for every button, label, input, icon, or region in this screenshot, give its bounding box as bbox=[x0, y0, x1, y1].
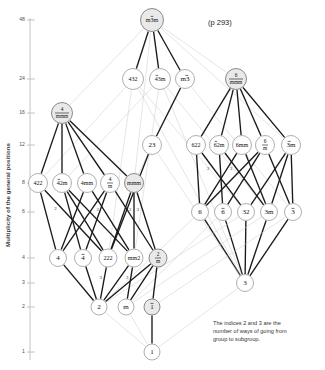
node-circle[interactable] bbox=[237, 275, 254, 292]
y-axis-tick-label: 2 bbox=[22, 303, 25, 309]
point-group-node[interactable]: 6 bbox=[215, 204, 232, 221]
point-group-node[interactable]: 622 bbox=[187, 136, 206, 155]
point-group-node[interactable]: 3m bbox=[282, 136, 301, 155]
lattice-edge bbox=[159, 217, 285, 302]
point-group-node[interactable]: mmm bbox=[125, 174, 144, 193]
page-reference: (p 293) bbox=[208, 18, 232, 27]
node-circle[interactable] bbox=[143, 136, 162, 155]
point-group-node[interactable]: 62m bbox=[210, 136, 229, 155]
point-group-node[interactable]: 2m bbox=[149, 249, 167, 267]
diagram-page: 48241612864321Multiplicity of the genera… bbox=[0, 0, 325, 370]
node-circle[interactable] bbox=[118, 299, 134, 315]
lattice-edge bbox=[243, 87, 285, 137]
point-group-node[interactable]: 42m bbox=[53, 174, 72, 193]
lattice-edge bbox=[237, 90, 241, 135]
lattice-edge bbox=[154, 32, 159, 68]
node-circle[interactable] bbox=[125, 174, 144, 193]
point-group-node[interactable]: 43m bbox=[150, 69, 171, 90]
node-circle[interactable] bbox=[215, 204, 232, 221]
node-circle[interactable] bbox=[285, 204, 302, 221]
lattice-edge bbox=[245, 221, 246, 274]
node-circle[interactable] bbox=[99, 249, 117, 267]
node-circle[interactable] bbox=[50, 250, 67, 267]
y-axis-tick-label: 1 bbox=[22, 348, 25, 354]
node-circle[interactable] bbox=[150, 69, 171, 90]
edge-index-label: 3 bbox=[129, 207, 132, 212]
point-group-node[interactable]: 1 bbox=[144, 344, 160, 360]
y-axis-tick-label: 3 bbox=[22, 279, 25, 285]
point-group-node[interactable]: 2 bbox=[91, 299, 107, 315]
edge-index-label: 3 bbox=[136, 207, 139, 212]
edge-index-label: 2 bbox=[126, 275, 129, 280]
node-circle[interactable] bbox=[91, 299, 107, 315]
y-axis-tick-label: 16 bbox=[19, 109, 25, 115]
lattice-edge bbox=[132, 218, 216, 301]
node-circle[interactable] bbox=[75, 250, 92, 267]
point-group-node[interactable]: 4m bbox=[101, 174, 120, 193]
lattice-edge bbox=[138, 89, 240, 275]
point-group-node[interactable]: 3 bbox=[285, 204, 302, 221]
point-group-node[interactable]: 3m bbox=[261, 204, 278, 221]
point-group-node[interactable]: 6 bbox=[192, 204, 209, 221]
node-circle[interactable] bbox=[187, 136, 206, 155]
node-circle[interactable] bbox=[144, 344, 160, 360]
lattice-edge bbox=[130, 314, 147, 344]
y-axis-tick-label: 12 bbox=[19, 141, 25, 147]
point-group-node[interactable]: 432 bbox=[123, 69, 144, 90]
point-group-node[interactable]: m3 bbox=[176, 70, 195, 89]
caption-line: number of ways of going from bbox=[213, 328, 287, 334]
edge-index-label: 2 bbox=[97, 207, 100, 212]
lattice-edge bbox=[153, 267, 157, 298]
point-group-node[interactable]: 422 bbox=[29, 174, 48, 193]
caption-line: The indices 2 and 3 are the bbox=[213, 320, 281, 326]
lattice-edge bbox=[101, 267, 107, 298]
caption-line: group to subgroup. bbox=[213, 336, 260, 342]
node-circle[interactable] bbox=[210, 136, 229, 155]
node-circle[interactable] bbox=[261, 204, 278, 221]
point-group-node[interactable]: 32 bbox=[238, 204, 255, 221]
point-group-node[interactable]: 4 bbox=[50, 250, 67, 267]
node-circle[interactable] bbox=[125, 249, 143, 267]
y-axis-tick-label: 6 bbox=[22, 208, 25, 214]
lattice-edge bbox=[86, 192, 107, 249]
lattice-edge bbox=[136, 31, 148, 68]
node-circle[interactable] bbox=[29, 174, 48, 193]
point-group-node[interactable]: 3 bbox=[237, 275, 254, 292]
node-circle[interactable] bbox=[144, 299, 160, 315]
node-circle[interactable] bbox=[123, 69, 144, 90]
lattice-edge bbox=[41, 123, 58, 173]
lattice-edge bbox=[158, 30, 180, 70]
lattice-edge bbox=[221, 90, 233, 136]
point-group-node[interactable]: 6m bbox=[256, 136, 275, 155]
lattice-edge bbox=[291, 155, 292, 203]
point-group-node[interactable]: 6mmm bbox=[226, 69, 247, 90]
point-group-node[interactable]: 4mm bbox=[78, 174, 97, 193]
point-group-node[interactable]: 4mmm bbox=[52, 103, 73, 124]
node-circle[interactable] bbox=[78, 174, 97, 193]
node-circle[interactable] bbox=[192, 204, 209, 221]
point-group-node[interactable]: m bbox=[118, 299, 134, 315]
lattice-edge bbox=[156, 88, 180, 136]
point-group-node[interactable]: 6mm bbox=[233, 136, 252, 155]
node-circle[interactable] bbox=[53, 174, 72, 193]
lattice-edge bbox=[41, 193, 56, 250]
point-group-node[interactable]: 4 bbox=[75, 250, 92, 267]
node-circle[interactable] bbox=[238, 204, 255, 221]
lattice-edge bbox=[64, 265, 94, 301]
lattice-edge bbox=[105, 313, 145, 347]
point-group-node[interactable]: mm2 bbox=[125, 249, 143, 267]
group-subgroup-lattice-svg: 48241612864321Multiplicity of the genera… bbox=[0, 0, 325, 370]
lattice-edge bbox=[162, 27, 227, 73]
node-circle[interactable] bbox=[176, 70, 195, 89]
lattice-edge bbox=[70, 121, 127, 176]
y-axis-tick-label: 48 bbox=[19, 16, 25, 22]
lattice-edge bbox=[205, 220, 240, 276]
node-circle[interactable] bbox=[282, 136, 301, 155]
point-group-node[interactable]: m3m bbox=[141, 9, 164, 32]
point-group-node[interactable]: 23 bbox=[143, 136, 162, 155]
point-group-node[interactable]: 222 bbox=[99, 249, 117, 267]
point-group-node[interactable]: 1 bbox=[144, 299, 160, 315]
node-circle[interactable] bbox=[233, 136, 252, 155]
node-group: m3m43243mm36mmm4mmm62262m6mm6m3m42242m4m… bbox=[29, 9, 302, 361]
node-circle[interactable] bbox=[141, 9, 164, 32]
